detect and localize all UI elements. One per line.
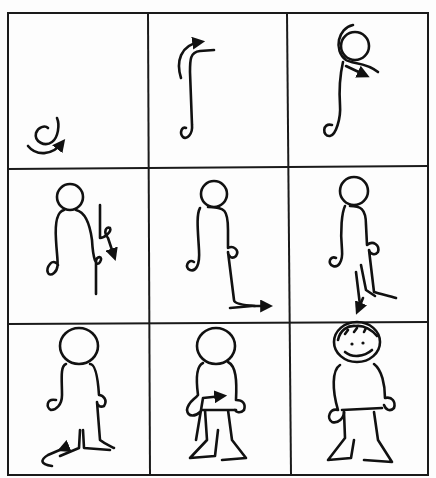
panel-5-foot-arrow-icon bbox=[187, 181, 268, 308]
panel-4-right-arm-loop-icon bbox=[47, 184, 114, 294]
panel-8-waist-arrow-icon bbox=[187, 328, 246, 460]
grid-lines bbox=[8, 13, 428, 475]
panel-9-smiling-figure-icon bbox=[328, 322, 395, 462]
panel-7-left-foot-arrow-icon bbox=[42, 328, 114, 466]
panel-1-curl-with-arrow-icon bbox=[28, 118, 62, 153]
panel-3-head-circle-icon bbox=[324, 25, 378, 136]
drawing-steps-grid bbox=[0, 0, 436, 478]
panel-2-hook-stroke-icon bbox=[179, 42, 214, 138]
panel-6-inner-leg-arrow-icon bbox=[330, 177, 396, 310]
